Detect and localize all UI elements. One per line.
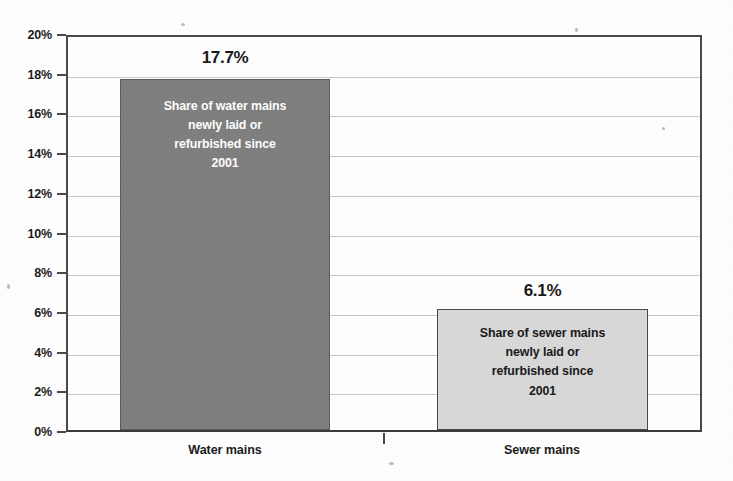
x-tick-mark-category-divider: [383, 433, 385, 444]
bar-value-label-water-mains: 17.7%: [202, 48, 249, 68]
bar-annotation-water-mains: Share of water mains newly laid or refur…: [131, 97, 318, 174]
x-category-label-sewer-mains: Sewer mains: [504, 443, 580, 457]
bar-annotation-line: Share of sewer mains: [448, 324, 636, 343]
bar-sewer-mains[interactable]: Share of sewer mains newly laid or refur…: [437, 309, 648, 430]
y-tick-label-20: 20%: [28, 28, 52, 42]
y-tick-mark-20: [57, 34, 66, 36]
bar-annotation-line: 2001: [448, 382, 636, 401]
y-tick-mark-2: [57, 391, 66, 393]
gridline-0: [68, 431, 700, 432]
y-tick-label-14: 14%: [28, 147, 52, 161]
y-tick-label-10: 10%: [28, 227, 52, 241]
y-tick-mark-12: [57, 193, 66, 195]
y-tick-label-2: 2%: [34, 385, 52, 399]
bar-annotation-line: refurbished since: [131, 135, 318, 154]
scan-speck: [181, 23, 185, 26]
y-tick-mark-0: [57, 431, 66, 433]
y-tick-label-4: 4%: [34, 346, 52, 360]
bar-water-mains[interactable]: Share of water mains newly laid or refur…: [120, 79, 330, 430]
bar-annotation-line: newly laid or: [131, 116, 318, 135]
y-tick-mark-8: [57, 272, 66, 274]
y-tick-mark-18: [57, 74, 66, 76]
bar-annotation-line: newly laid or: [448, 343, 636, 362]
y-tick-label-0: 0%: [34, 425, 52, 439]
y-tick-mark-14: [57, 153, 66, 155]
bar-annotation-sewer-mains: Share of sewer mains newly laid or refur…: [448, 324, 636, 401]
y-tick-mark-16: [57, 113, 66, 115]
x-category-label-water-mains: Water mains: [188, 443, 261, 457]
y-tick-mark-6: [57, 312, 66, 314]
bar-annotation-line: refurbished since: [448, 362, 636, 381]
bar-annotation-line: Share of water mains: [131, 97, 318, 116]
gridline-18: [68, 77, 700, 78]
plot-area: Share of water mains newly laid or refur…: [66, 35, 702, 432]
scan-speck: [575, 28, 578, 32]
y-axis: 20% 18% 16% 14% 12% 10% 8% 6% 4% 2% 0%: [0, 0, 66, 481]
scan-speck: [389, 462, 394, 465]
y-tick-mark-4: [57, 352, 66, 354]
y-tick-label-6: 6%: [34, 306, 52, 320]
y-tick-label-12: 12%: [28, 187, 52, 201]
bar-annotation-line: 2001: [131, 154, 318, 173]
bar-value-label-sewer-mains: 6.1%: [524, 281, 562, 301]
bar-chart: 20% 18% 16% 14% 12% 10% 8% 6% 4% 2% 0%: [0, 0, 733, 481]
y-tick-label-8: 8%: [34, 266, 52, 280]
y-tick-mark-10: [57, 233, 66, 235]
y-tick-label-16: 16%: [28, 107, 52, 121]
y-tick-label-18: 18%: [28, 68, 52, 82]
gridline-20: [68, 37, 700, 38]
